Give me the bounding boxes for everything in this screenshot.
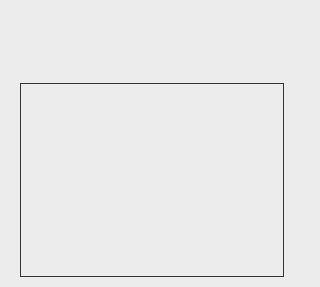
quilt-grid xyxy=(20,83,284,277)
